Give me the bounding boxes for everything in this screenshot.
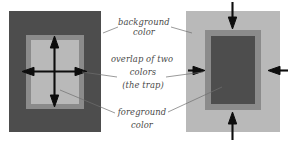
diagram-canvas: background color overlap of two colors (…: [0, 0, 289, 142]
right-foreground-color-rect: [211, 36, 255, 104]
label-background: background color: [118, 17, 170, 37]
label-foreground-line2: color: [131, 120, 154, 130]
label-foreground-line1: foreground: [117, 107, 167, 117]
label-overlap-line3: (the trap): [122, 80, 164, 90]
right-panel-group: [186, 2, 288, 140]
label-background-line2: color: [133, 27, 156, 37]
trapping-diagram-figure: background color overlap of two colors (…: [0, 0, 289, 142]
label-overlap-line2: colors: [130, 67, 157, 77]
left-panel-group: [9, 11, 101, 132]
leader-background-left: [103, 27, 118, 33]
label-overlap-line1: overlap of two: [111, 54, 173, 64]
label-foreground: foreground color: [117, 107, 167, 130]
label-background-line1: background: [118, 17, 170, 27]
label-overlap: overlap of two colors (the trap): [111, 54, 173, 90]
